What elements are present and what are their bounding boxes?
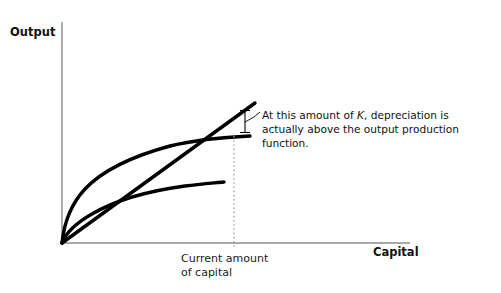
depreciation-line <box>62 103 255 243</box>
annotation-line-3: function. <box>262 137 309 149</box>
x-tick-label-line1: Current amount <box>181 252 269 265</box>
annotation-line-2: actually above the output production <box>262 123 459 135</box>
x-tick-label-group: Current amount of capital <box>181 252 269 279</box>
x-axis-title: Capital <box>373 245 419 259</box>
annotation-line-1: At this amount of K, depreciation is <box>262 109 449 121</box>
lower-concave-curve <box>62 182 224 243</box>
economics-diagram: Output Capital Current amount of capital… <box>0 0 501 293</box>
annotation-line1-post: , depreciation is <box>364 109 449 121</box>
annotation-leader-line <box>245 112 260 122</box>
curves-group <box>62 103 255 243</box>
x-tick-label-line2: of capital <box>181 266 232 279</box>
y-axis-title: Output <box>10 25 56 39</box>
annotation-line1-pre: At this amount of <box>262 109 357 121</box>
annotation-text-group: At this amount of K, depreciation is act… <box>262 109 459 149</box>
